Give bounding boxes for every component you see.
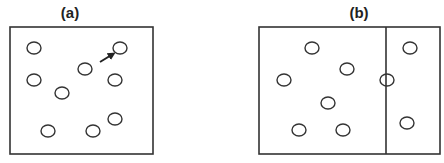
particle-circle xyxy=(400,117,414,129)
particle-circle xyxy=(113,42,127,54)
panel-a-particles xyxy=(27,42,127,137)
particle-circle xyxy=(403,42,417,54)
panel-a: (a) xyxy=(10,4,153,154)
particle-circle xyxy=(305,42,319,54)
panel-b-label: (b) xyxy=(349,4,368,21)
particle-circle xyxy=(277,74,291,86)
particle-circle xyxy=(41,125,55,137)
panel-b: (b) xyxy=(259,4,440,154)
diagram-canvas: (a) (b) xyxy=(0,0,444,163)
particle-circle xyxy=(292,124,306,136)
particle-circle xyxy=(340,63,354,75)
motion-arrow-icon xyxy=(100,54,113,62)
panel-a-label: (a) xyxy=(61,4,79,21)
particle-circle xyxy=(108,113,122,125)
panel-b-box xyxy=(259,27,440,154)
particle-circle xyxy=(78,63,92,75)
particle-circle xyxy=(380,74,394,86)
panel-b-particles xyxy=(277,42,417,136)
particle-circle xyxy=(86,125,100,137)
particle-circle xyxy=(55,87,69,99)
particle-circle xyxy=(27,42,41,54)
panel-a-box xyxy=(10,27,153,154)
particle-circle xyxy=(108,74,122,86)
particle-circle xyxy=(321,97,335,109)
particle-circle xyxy=(27,74,41,86)
particle-circle xyxy=(336,124,350,136)
